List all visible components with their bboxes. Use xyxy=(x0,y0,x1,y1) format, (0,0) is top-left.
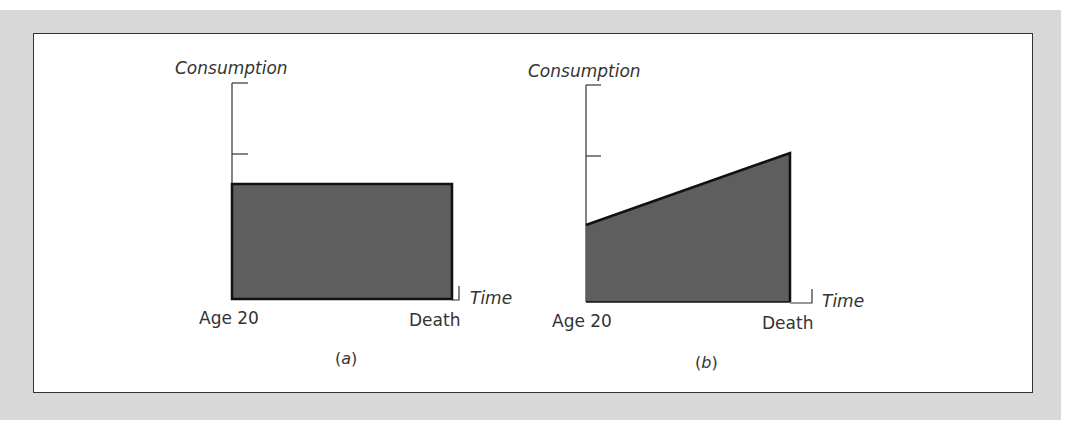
time-axis-tick xyxy=(790,289,812,303)
panel-a: Consumption Time Age 20 Death (a) xyxy=(175,58,512,368)
consumption-area xyxy=(232,184,452,299)
y-axis-label: Consumption xyxy=(528,61,641,81)
panel-caption: (b) xyxy=(695,353,718,372)
x-axis-label: Time xyxy=(822,291,864,311)
figure-canvas: Consumption Time Age 20 Death (a) Consum… xyxy=(0,0,1071,432)
x-end-label: Death xyxy=(762,313,813,333)
panel-caption: (a) xyxy=(335,349,357,368)
x-start-label: Age 20 xyxy=(552,311,612,331)
consumption-area xyxy=(586,153,790,302)
y-axis-label: Consumption xyxy=(175,58,288,78)
x-start-label: Age 20 xyxy=(199,308,259,328)
panel-b: Consumption Time Age 20 Death (b) xyxy=(528,61,864,372)
caption-letter: b xyxy=(701,353,711,372)
caption-letter: a xyxy=(341,349,351,368)
x-axis-label: Time xyxy=(470,288,512,308)
x-end-label: Death xyxy=(409,310,460,330)
